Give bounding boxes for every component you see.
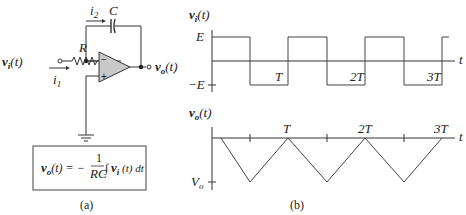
vi-T-tick-label: T bbox=[275, 69, 283, 84]
caption-a: (a) bbox=[80, 198, 93, 212]
current-i2-label: i2 bbox=[90, 3, 99, 20]
arrow-head-icon bbox=[66, 66, 70, 70]
input-terminal bbox=[58, 59, 62, 63]
formula-box: vo(t) = − 1 RC ∫ vi (t) dt bbox=[33, 146, 146, 190]
output-node bbox=[139, 65, 143, 69]
integrator-circuit: vi(t) R i1 C i2 − + bbox=[2, 3, 178, 141]
current-i1-label: i1 bbox=[53, 72, 61, 89]
ground-icon bbox=[78, 135, 94, 141]
input-waveform-graph: vi(t) t E −E T 2T 3T bbox=[188, 7, 463, 92]
vo-3T-tick-label: 3T bbox=[433, 121, 449, 136]
vi-2T-tick-label: 2T bbox=[350, 69, 365, 84]
output-terminal bbox=[147, 65, 151, 69]
vi-t-label: t bbox=[459, 52, 463, 67]
input-voltage-label: vi(t) bbox=[2, 54, 23, 71]
integrator-figure: vi(t) R i1 C i2 − + bbox=[0, 0, 466, 215]
vo-t-label: t bbox=[459, 129, 463, 144]
output-waveform-graph: vo(t) t Vo T 2T 3T bbox=[189, 105, 463, 191]
triangle-wave bbox=[221, 138, 442, 182]
vo-2T-tick-label: 2T bbox=[358, 121, 373, 136]
E-tick-label: E bbox=[195, 29, 204, 44]
caption-b: (b) bbox=[290, 198, 304, 212]
noninverting-input-sign: + bbox=[101, 71, 107, 82]
negE-tick-label: −E bbox=[188, 77, 205, 92]
capacitor-label: C bbox=[109, 3, 118, 18]
vo-T-tick-label: T bbox=[283, 121, 291, 136]
vi-axis-label: vi(t) bbox=[189, 7, 210, 24]
vo-axis-label: vo(t) bbox=[189, 105, 212, 122]
inverting-input-sign: − bbox=[101, 54, 107, 65]
integral-sign: ∫ bbox=[104, 161, 109, 175]
arrow-head-icon bbox=[102, 19, 106, 23]
output-voltage-label: vo(t) bbox=[155, 59, 178, 76]
vi-3T-tick-label: 3T bbox=[426, 69, 442, 84]
fraction-numerator: 1 bbox=[96, 151, 102, 165]
Vo-tick-label: Vo bbox=[191, 174, 204, 191]
